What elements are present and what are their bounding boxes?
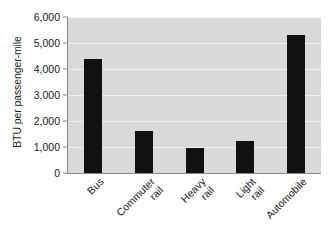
x-axis-tick-labels: BusCommuterrailHeavyrailLightrailAutomob…: [0, 176, 331, 231]
y-tick-label: 3,000: [20, 89, 60, 101]
bar: [186, 148, 204, 173]
x-tick-label: Bus: [21, 176, 107, 231]
bar: [135, 131, 153, 173]
y-tick-label: 4,000: [20, 63, 60, 75]
y-tick-label: 5,000: [20, 37, 60, 49]
bars-container: [68, 17, 321, 173]
y-tick-label: 6,000: [20, 11, 60, 23]
x-axis-line: [67, 173, 321, 174]
bar: [287, 35, 305, 173]
plot-area: [68, 17, 321, 173]
bar-chart: BTU per passenger-mile 01,0002,0003,0004…: [0, 0, 331, 231]
y-tick-label: 1,000: [20, 141, 60, 153]
x-tick-label-line: Bus: [21, 176, 107, 231]
y-tick-label: 2,000: [20, 115, 60, 127]
bar: [236, 141, 254, 174]
bar: [84, 59, 102, 173]
